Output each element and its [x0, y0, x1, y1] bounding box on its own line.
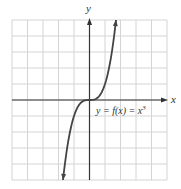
cubic-function-plot — [0, 0, 181, 189]
function-equation-label: y = f(x) = x3 — [96, 104, 146, 116]
equation-exponent: 3 — [142, 104, 146, 112]
equation-base: y = f(x) = x — [96, 105, 142, 116]
y-axis-arrow-icon — [87, 18, 92, 25]
x-axis-label: x — [171, 93, 176, 105]
axes — [12, 18, 168, 180]
y-axis-label: y — [86, 2, 91, 14]
